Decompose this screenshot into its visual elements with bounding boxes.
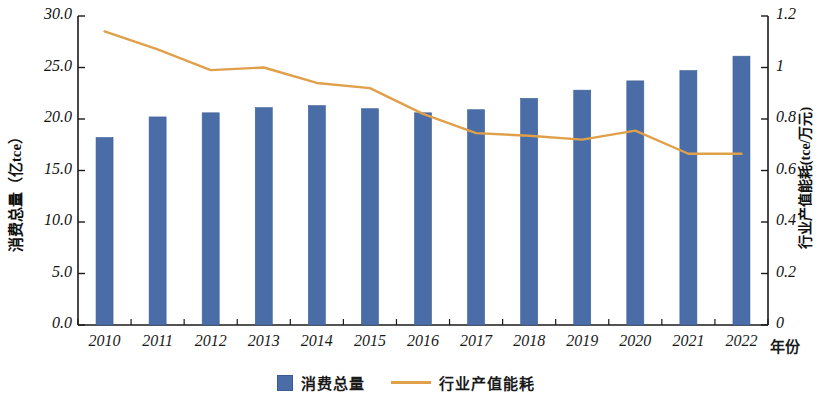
legend-item[interactable]: 行业产值能耗: [391, 372, 535, 393]
legend-label: 行业产值能耗: [439, 372, 535, 393]
bar: [149, 117, 166, 325]
chart-legend: 消费总量行业产值能耗: [0, 372, 811, 393]
bar: [733, 56, 750, 325]
legend-bar-swatch-icon: [277, 375, 293, 391]
legend-label: 消费总量: [301, 372, 365, 393]
bar: [202, 113, 219, 325]
bar: [574, 90, 591, 325]
bar: [468, 110, 485, 325]
bar: [361, 109, 378, 325]
legend-line-swatch-icon: [391, 381, 431, 384]
bar: [521, 98, 538, 325]
bar: [415, 113, 432, 325]
bar: [308, 106, 325, 325]
bar: [680, 71, 697, 325]
legend-item[interactable]: 消费总量: [277, 372, 365, 393]
bar: [255, 108, 272, 325]
bar: [627, 81, 644, 325]
bar: [96, 138, 113, 325]
